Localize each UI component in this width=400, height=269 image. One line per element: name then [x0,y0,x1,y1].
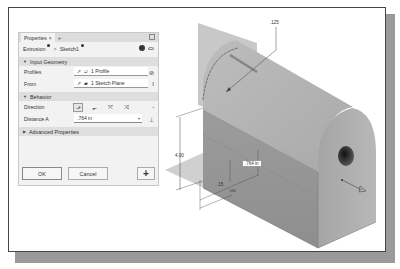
eye-icon[interactable] [148,47,154,50]
apply-add-button[interactable]: + [137,167,155,180]
dimension-offset2-label: .560 [229,189,236,193]
status-dot-icon [47,44,50,47]
panel-tab-bar: Properties × + [19,33,158,42]
gear-icon[interactable] [139,45,145,51]
extruded-solid[interactable] [203,40,376,248]
profiles-label: Profiles [24,69,72,75]
breadcrumb: Extrusion > Sketch1 [19,42,158,55]
dimension-height-label: 4.00 [175,153,184,158]
direction-default-button[interactable]: ⬏ [73,103,83,112]
panel-buttons: OK Cancel + [22,167,155,180]
from-value: 1 Sketch Plane [91,80,125,86]
collapse-triangle-icon: ▼ [23,94,27,99]
profiles-value: 1 Profile [91,68,109,74]
add-tab-icon[interactable]: + [58,35,62,41]
measure-icon[interactable]: ⊥ [149,116,154,123]
profiles-selector[interactable]: ➚ ▱ 1 Profile [74,67,148,76]
breadcrumb-sketch[interactable]: Sketch1 [60,46,79,52]
dimension-offset-label: .15 [217,182,223,187]
expand-triangle-icon: ▶ [23,129,26,134]
extrusion-properties-panel: Properties × + Extrusion > Sketch1 ▼ Inp… [18,32,159,186]
section-title: Input Geometry [30,59,67,65]
cursor-arrow-icon: ➚ [77,80,81,86]
dropdown-arrow-icon[interactable]: ▾ [138,116,140,121]
from-label: From [24,81,72,87]
from-selector[interactable]: ➚ ▰ 1 Sketch Plane [74,79,148,88]
section-behavior[interactable]: ▼ Behavior [19,92,158,101]
profile-icon: ▱ [84,68,88,74]
distance-input[interactable]: .764 in ▾ [74,114,142,123]
breadcrumb-extrusion[interactable]: Extrusion [23,46,45,52]
ok-button[interactable]: OK [22,167,62,180]
section-input-geometry[interactable]: ▼ Input Geometry [19,57,158,66]
direction-asymmetric-button[interactable]: ⤨ [121,103,131,112]
distance-row: Distance A .764 in ▾ ⊥ [19,113,158,125]
plane-icon: ▰ [84,80,88,86]
collapse-triangle-icon: ▼ [23,59,27,64]
hole-feature [338,146,354,166]
status-dot-icon [81,44,84,47]
tab-properties-label: Properties [24,35,47,41]
section-title: Behavior [30,94,51,100]
from-row: From ➚ ▰ 1 Sketch Plane I [19,78,158,90]
direction-label: Direction [24,104,72,110]
more-options-icon[interactable]: • [153,105,154,110]
direction-buttons: ⬏ ⬐ ⤧ ⤨ [73,103,131,112]
breadcrumb-separator: > [53,46,56,52]
close-icon[interactable]: × [49,35,52,41]
dimension-radius-label: .125 [270,20,279,25]
distance-value: .764 in [77,115,92,121]
tab-properties[interactable]: Properties × [21,33,55,42]
section-title: Advanced Properties [29,129,79,135]
distance-label: Distance A [24,116,72,122]
section-advanced-properties[interactable]: ▶ Advanced Properties [19,127,158,136]
direction-row: Direction ⬏ ⬐ ⤧ ⤨ • [19,101,158,113]
clear-selection-icon[interactable]: ⊘ [149,69,154,76]
text-cursor-icon[interactable]: I [152,81,154,87]
dock-icon[interactable] [149,34,155,40]
cursor-arrow-icon: ➚ [77,68,81,74]
profiles-row: Profiles ➚ ▱ 1 Profile ⊘ [19,66,158,78]
direction-symmetric-button[interactable]: ⤧ [105,103,115,112]
distance-tag[interactable]: .764 in [242,160,262,167]
cancel-button[interactable]: Cancel [68,167,108,180]
direction-flipped-button[interactable]: ⬐ [89,103,99,112]
